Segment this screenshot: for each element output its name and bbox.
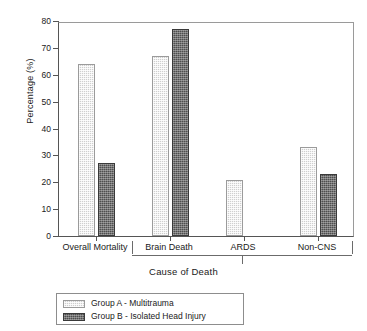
y-tick-label: 10 (42, 205, 51, 214)
bar-groupB-non-cns (320, 174, 337, 236)
x-category-label: Non-CNS (298, 243, 337, 252)
y-tick-label: 30 (42, 151, 51, 160)
legend-swatch-group-b (63, 313, 85, 321)
y-tick-mark (53, 102, 59, 103)
y-tick-mark (53, 48, 59, 49)
y-tick-label: 20 (42, 178, 51, 187)
x-axis-title: Cause of Death (0, 266, 367, 277)
y-tick-mark (53, 155, 59, 156)
y-tick-label: 60 (42, 71, 51, 80)
bar-groupB-brain-death (172, 29, 189, 236)
y-tick-label: 40 (42, 124, 51, 133)
legend-item: Group B - Isolated Head Injury (63, 311, 243, 322)
legend-label-group-a: Group A - Multitrauma (91, 299, 174, 308)
x-tick-mark (96, 236, 97, 241)
x-category-label: ARDS (230, 243, 255, 252)
y-tick-label: 0 (46, 232, 51, 241)
x-tick-mark (318, 236, 319, 241)
y-tick-mark (53, 209, 59, 210)
bar-chart-figure: Percentage (%) 01020304050607080 Overall… (0, 0, 367, 331)
category-separator (132, 241, 133, 254)
category-separator (352, 241, 353, 254)
bar-groupA-non-cns (300, 147, 317, 236)
x-tick-mark (244, 236, 245, 241)
y-tick-label: 50 (42, 97, 51, 106)
bar-groupA-brain-death (152, 56, 169, 236)
plot-area: 01020304050607080 (58, 22, 354, 237)
legend-swatch-group-a (63, 300, 85, 308)
axis-bracket-stem (242, 255, 243, 264)
x-tick-mark (170, 236, 171, 241)
y-tick-mark (53, 21, 59, 22)
bar-groupA-ards (226, 180, 243, 236)
y-tick-mark (53, 236, 59, 237)
y-tick-mark (53, 182, 59, 183)
legend-item: Group A - Multitrauma (63, 298, 243, 309)
x-category-label: Overall Mortality (62, 243, 127, 252)
y-axis-title: Percentage (%) (25, 21, 35, 161)
y-tick-label: 80 (42, 17, 51, 26)
x-category-label: Brain Death (145, 243, 193, 252)
y-tick-mark (53, 129, 59, 130)
y-tick-label: 70 (42, 44, 51, 53)
legend-label-group-b: Group B - Isolated Head Injury (91, 312, 206, 321)
bar-groupB-overall-mortality (98, 163, 115, 236)
legend: Group A - Multitrauma Group B - Isolated… (56, 293, 244, 325)
bar-groupA-overall-mortality (78, 64, 95, 236)
y-tick-mark (53, 75, 59, 76)
